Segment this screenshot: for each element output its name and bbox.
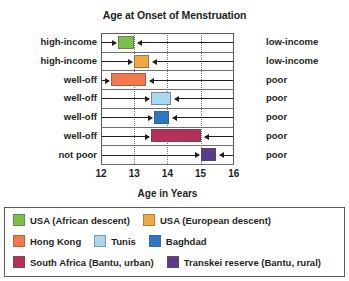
x-tick-label: 12 (89, 168, 113, 179)
arrow-into-bar-left (102, 117, 152, 118)
legend-item: Transkei reserve (Bantu, rural) (167, 256, 334, 268)
row-label-left: not poor (5, 149, 97, 160)
legend-label: Transkei reserve (Bantu, rural) (184, 257, 321, 268)
legend-swatch (167, 256, 179, 268)
legend-row: USA (African descent)USA (European desce… (13, 214, 284, 226)
legend-swatch (13, 256, 25, 268)
row-label-left: high-income (5, 55, 97, 66)
range-bar (201, 148, 216, 161)
legend-item: USA (European descent) (143, 214, 284, 226)
row-label-right: poor (266, 111, 287, 122)
row-separator (101, 108, 234, 109)
arrow-into-bar-right (150, 80, 233, 81)
chart-figure: Age at Onset of Menstruation high-income… (0, 0, 349, 281)
row-separator (101, 145, 234, 146)
row-separator (101, 89, 234, 90)
legend-item: USA (African descent) (13, 214, 143, 226)
arrow-into-bar-left (102, 80, 109, 81)
legend-swatch (13, 214, 25, 226)
legend-swatch (94, 235, 106, 247)
arrow-into-bar-left (102, 61, 132, 62)
legend-swatch (13, 235, 25, 247)
row-separator (101, 164, 234, 165)
range-bar (151, 129, 201, 142)
legend-label: Tunis (111, 236, 136, 247)
arrow-into-bar-right (153, 61, 233, 62)
arrow-into-bar-left (102, 155, 199, 156)
legend: USA (African descent)USA (European desce… (4, 207, 345, 277)
range-bar (111, 73, 146, 86)
arrow-into-bar-right (205, 136, 233, 137)
range-bar (154, 111, 169, 124)
legend-label: South Africa (Bantu, urban) (30, 257, 154, 268)
arrow-into-bar-left (102, 98, 149, 99)
arrow-into-bar-right (220, 155, 233, 156)
row-label-left: well-off (5, 130, 97, 141)
range-bar (118, 36, 134, 49)
legend-item: Baghdad (149, 235, 220, 247)
range-bar (134, 55, 149, 68)
legend-label: USA (European descent) (160, 215, 271, 226)
arrow-into-bar-right (175, 98, 233, 99)
arrow-into-bar-right (138, 42, 233, 43)
row-separator (101, 70, 234, 71)
legend-swatch (149, 235, 161, 247)
legend-item: South Africa (Bantu, urban) (13, 256, 167, 268)
x-axis-title: Age in Years (101, 188, 234, 199)
x-tick-label: 15 (189, 168, 213, 179)
row-label-right: poor (266, 130, 287, 141)
legend-row: Hong KongTunisBaghdad (13, 235, 219, 247)
row-label-left: high-income (5, 36, 97, 47)
range-bar (151, 92, 171, 105)
x-tick-label: 16 (222, 168, 246, 179)
x-tick-label: 13 (122, 168, 146, 179)
row-separator (101, 127, 234, 128)
row-label-right: low-income (266, 55, 318, 66)
x-tick-label: 14 (155, 168, 179, 179)
row-label-left: well-off (5, 74, 97, 85)
arrow-into-bar-left (102, 136, 149, 137)
row-label-right: poor (266, 92, 287, 103)
legend-row: South Africa (Bantu, urban)Transkei rese… (13, 256, 334, 268)
row-label-left: well-off (5, 111, 97, 122)
row-label-right: poor (266, 74, 287, 85)
legend-label: Hong Kong (30, 236, 81, 247)
chart-title: Age at Onset of Menstruation (0, 9, 349, 21)
legend-label: Baghdad (166, 236, 207, 247)
legend-item: Tunis (94, 235, 149, 247)
legend-label: USA (African descent) (30, 215, 130, 226)
legend-swatch (143, 214, 155, 226)
row-label-right: low-income (266, 36, 318, 47)
legend-item: Hong Kong (13, 235, 94, 247)
arrow-into-bar-left (102, 42, 116, 43)
arrow-into-bar-right (173, 117, 233, 118)
row-label-right: poor (266, 149, 287, 160)
row-separator (101, 52, 234, 53)
row-label-left: well-off (5, 92, 97, 103)
